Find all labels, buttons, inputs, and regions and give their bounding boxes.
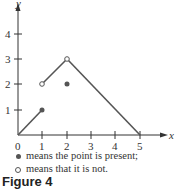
segment-0-to-1 [18, 110, 42, 135]
filled-point-1-1 [40, 108, 45, 113]
x-axis-label: x [168, 129, 174, 141]
filled-point-2-2 [65, 82, 70, 87]
segment-1-to-2 [44, 61, 66, 83]
y-axis-label: y [15, 0, 21, 9]
legend-filled: means the point is present; [14, 150, 138, 162]
segment-2-to-5 [69, 61, 141, 136]
filled-dot-icon [14, 150, 22, 162]
figure-caption: Figure 4 [2, 174, 53, 189]
function-graph [18, 61, 140, 136]
legend-filled-text: means the point is present; [26, 150, 138, 161]
y-tick-label: 3 [5, 53, 11, 65]
legend-open-text: means that it is not. [26, 163, 108, 174]
open-point-2-3 [65, 57, 70, 62]
y-tick-label: 4 [5, 28, 11, 40]
y-tick-label: 2 [5, 78, 11, 90]
open-point-1-2 [40, 82, 45, 87]
x-axis-arrow-icon [160, 133, 168, 138]
y-tick-label: 1 [5, 104, 11, 116]
